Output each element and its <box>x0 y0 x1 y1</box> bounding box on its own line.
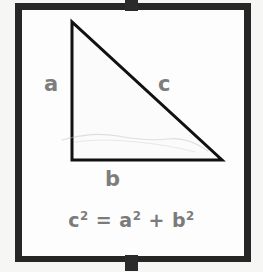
formula-lhs-exponent: 2 <box>80 209 89 223</box>
formula-term2-base: b <box>172 209 186 231</box>
pythagorean-formula: c2 = a2 + b2 <box>0 209 263 231</box>
formula-term1-base: a <box>119 209 132 231</box>
right-triangle-shape <box>72 22 222 160</box>
formula-term1-exponent: 2 <box>133 209 142 223</box>
formula-lhs-base: c <box>68 209 80 231</box>
pythagorean-theorem-figure: a c b c2 = a2 + b2 <box>0 0 263 272</box>
label-side-c: c <box>158 74 170 95</box>
formula-plus: + <box>148 209 164 231</box>
triangle-svg <box>0 0 263 272</box>
triangle-figure <box>0 0 263 272</box>
label-side-a: a <box>44 74 58 95</box>
formula-term2-exponent: 2 <box>186 209 195 223</box>
formula-equals: = <box>96 209 112 231</box>
label-side-b: b <box>105 169 120 190</box>
